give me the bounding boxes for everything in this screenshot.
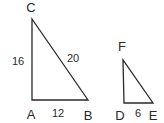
side-length-cb: 20 bbox=[67, 52, 79, 64]
triangle-abc bbox=[32, 19, 88, 100]
vertex-label-c: C bbox=[26, 0, 35, 15]
vertex-label-d: D bbox=[115, 108, 124, 123]
vertex-label-a: A bbox=[27, 107, 36, 122]
vertex-label-f: F bbox=[118, 39, 126, 54]
side-length-ab: 12 bbox=[52, 107, 64, 119]
vertex-label-b: B bbox=[84, 108, 93, 123]
side-length-de: 6 bbox=[135, 107, 141, 119]
triangle-def bbox=[123, 60, 153, 103]
vertex-label-e: E bbox=[149, 108, 158, 123]
side-length-ac: 16 bbox=[12, 55, 24, 67]
diagram-canvas: C A B 16 20 12 F D E 6 bbox=[0, 0, 164, 123]
